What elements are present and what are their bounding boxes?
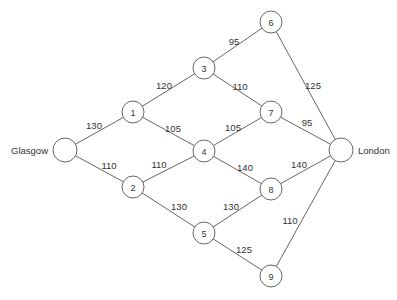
edge-weight-label: 105 xyxy=(225,122,241,133)
node-number-label: 2 xyxy=(130,183,135,193)
node-1: 1 xyxy=(122,101,144,123)
node-number-label: 7 xyxy=(268,108,273,118)
node-8: 8 xyxy=(260,178,282,200)
edge-weight-label: 110 xyxy=(282,215,297,226)
node-number-label: 6 xyxy=(268,18,273,28)
node-9: 9 xyxy=(260,265,282,287)
nodes-layer: Glasgow123456789London xyxy=(11,11,390,287)
node-number-label: 1 xyxy=(130,108,135,118)
node-london: London xyxy=(329,138,390,162)
node-circle xyxy=(329,138,353,162)
node-number-label: 3 xyxy=(201,64,206,74)
city-label: London xyxy=(358,145,390,156)
edge-weight-label: 125 xyxy=(305,80,321,91)
edge-weight-label: 140 xyxy=(291,159,307,170)
edge-weight-label: 105 xyxy=(165,123,181,134)
edge-weight-label: 125 xyxy=(236,244,252,255)
edge-5-9 xyxy=(204,233,271,276)
node-5: 5 xyxy=(193,222,215,244)
node-circle xyxy=(53,138,77,162)
node-number-label: 9 xyxy=(268,272,273,282)
node-7: 7 xyxy=(260,101,282,123)
edge-weight-label: 130 xyxy=(171,201,187,212)
city-label: Glasgow xyxy=(11,145,48,156)
edge-weight-label: 120 xyxy=(156,80,172,91)
network-diagram: 1301101201051101309511010514013012512595… xyxy=(0,0,397,300)
edge-weight-label: 95 xyxy=(229,36,240,47)
node-4: 4 xyxy=(193,140,215,162)
node-2: 2 xyxy=(122,176,144,198)
edge-weight-label: 130 xyxy=(86,120,102,131)
edge-weight-label: 130 xyxy=(223,201,239,212)
node-glasgow: Glasgow xyxy=(11,138,77,162)
edge-weight-label: 110 xyxy=(232,81,247,92)
node-number-label: 4 xyxy=(201,147,206,157)
edge-weight-label: 110 xyxy=(151,159,166,170)
edge-2-4 xyxy=(133,151,204,187)
node-3: 3 xyxy=(193,57,215,79)
edge-2-5 xyxy=(133,187,204,233)
node-6: 6 xyxy=(260,11,282,33)
node-number-label: 8 xyxy=(268,185,273,195)
edge-weight-label: 140 xyxy=(237,162,253,173)
edge-weight-label: 110 xyxy=(101,160,116,171)
edge-weight-label: 95 xyxy=(302,117,313,128)
node-number-label: 5 xyxy=(201,229,206,239)
